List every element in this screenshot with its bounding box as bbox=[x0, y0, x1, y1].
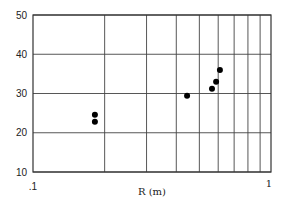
data-point bbox=[92, 112, 98, 118]
data-point bbox=[184, 93, 190, 99]
grid-lines bbox=[33, 15, 271, 172]
x-axis-title: R (m) bbox=[138, 186, 166, 197]
data-points bbox=[92, 67, 223, 125]
y-axis-tick-labels: 1020304050 bbox=[16, 10, 28, 178]
scatter-chart: 1020304050 .11 R (m) bbox=[0, 0, 285, 210]
x-tick-label: .1 bbox=[29, 181, 38, 192]
data-point bbox=[209, 86, 215, 92]
y-tick-label: 10 bbox=[16, 167, 28, 178]
y-tick-label: 50 bbox=[16, 10, 28, 21]
y-tick-label: 30 bbox=[16, 88, 28, 99]
data-point bbox=[213, 79, 219, 85]
data-point bbox=[92, 119, 98, 125]
x-tick-label: 1 bbox=[266, 178, 272, 189]
data-point bbox=[217, 67, 223, 73]
y-tick-label: 20 bbox=[16, 127, 28, 138]
y-tick-label: 40 bbox=[16, 49, 28, 60]
